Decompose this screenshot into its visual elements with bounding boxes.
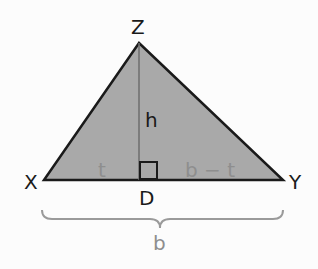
base-brace — [42, 210, 283, 228]
segment-label-b-minus-t: b − t — [185, 160, 235, 180]
vertex-label-y: Y — [289, 172, 301, 192]
vertex-label-z: Z — [131, 17, 145, 37]
vertex-label-x: X — [24, 172, 38, 192]
vertex-label-d: D — [139, 188, 154, 208]
triangle-diagram — [0, 0, 318, 269]
triangle-xyz — [44, 43, 283, 180]
segment-label-t: t — [98, 160, 106, 180]
height-label: h — [145, 110, 158, 130]
base-label-b: b — [153, 233, 166, 253]
